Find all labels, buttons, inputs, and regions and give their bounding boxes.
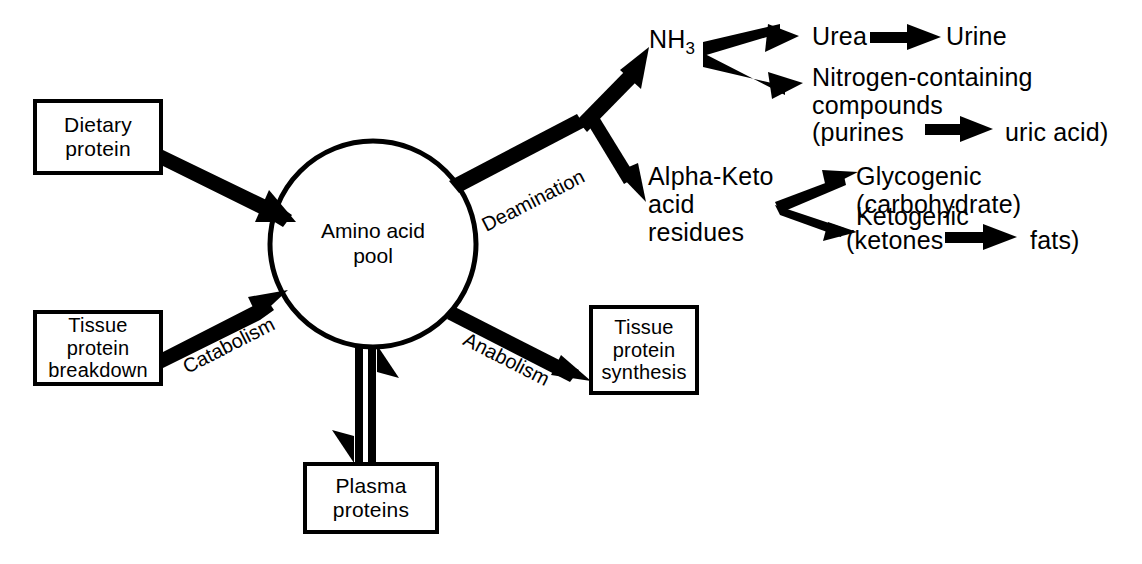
box-tissue-protein-synthesis-label: Tissue protein synthesis bbox=[593, 316, 695, 383]
arrow-deamination-to-alpha-keto bbox=[584, 112, 646, 202]
amino-acid-pool-label: Amino acid pool bbox=[283, 218, 463, 268]
arrow-pool-to-plasma-proteins bbox=[332, 345, 399, 463]
label-fats: fats) bbox=[1030, 226, 1080, 254]
metabolism-diagram: Dietary protein Tissue protein breakdown… bbox=[0, 0, 1142, 564]
label-nh3-subscript: 3 bbox=[686, 39, 696, 58]
box-plasma-proteins-label: Plasma proteins bbox=[307, 474, 435, 521]
label-uric-acid: uric acid) bbox=[1005, 118, 1108, 146]
box-tissue-protein-breakdown[interactable]: Tissue protein breakdown bbox=[33, 310, 163, 386]
label-urea: Urea bbox=[812, 22, 867, 50]
box-dietary-protein[interactable]: Dietary protein bbox=[33, 99, 163, 175]
label-purines: (purines bbox=[812, 118, 904, 146]
label-nh3: NH3 bbox=[649, 25, 695, 58]
arrow-dietary-protein-to-pool bbox=[163, 150, 296, 227]
label-nh3-text: NH bbox=[649, 25, 686, 53]
arrow-urea-to-urine bbox=[870, 24, 941, 50]
box-dietary-protein-label: Dietary protein bbox=[37, 113, 159, 160]
box-tissue-protein-synthesis[interactable]: Tissue protein synthesis bbox=[589, 305, 699, 395]
arrow-nh3-to-nitrogen-compounds bbox=[703, 53, 803, 99]
box-plasma-proteins[interactable]: Plasma proteins bbox=[303, 462, 439, 534]
label-nitrogen-containing-compounds: Nitrogen-containing compounds bbox=[812, 63, 1033, 119]
box-tissue-protein-breakdown-label: Tissue protein breakdown bbox=[37, 314, 159, 381]
label-urine: Urine bbox=[946, 22, 1007, 50]
label-alpha-keto-acid-residues: Alpha-Keto acid residues bbox=[648, 162, 774, 246]
arrow-nh3-to-urea bbox=[703, 24, 799, 56]
label-ketones: (ketones bbox=[846, 226, 944, 254]
arrow-purines-to-uric-acid bbox=[925, 116, 993, 142]
